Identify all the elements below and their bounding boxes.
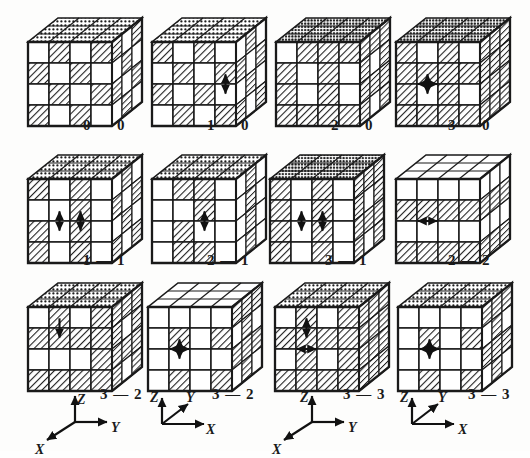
cube-front-cell [417,221,438,242]
cube-front-cell [152,221,173,242]
cube-front-cell [215,221,236,242]
cube-front-cell [215,200,236,221]
cube-front-face [28,307,112,391]
cube-front-cell [70,42,91,63]
cube-front-cell [396,242,417,263]
cube-label: 3 — 3 [343,386,386,403]
cube-front-cell [49,105,70,126]
cube-front-cell [276,42,297,63]
cube-1-0 [152,18,266,126]
cube-front-cell [459,63,480,84]
axis-triad-3 [284,396,344,440]
cube-front-cell [396,200,417,221]
cube-front-cell [338,307,359,328]
cube-front-face [28,42,112,126]
cube-front-cell [152,84,173,105]
cube-front-cell [276,105,297,126]
cube-front-cell [333,200,354,221]
cube-front-cell [417,42,438,63]
cube-front-cell [275,370,296,391]
cube-front-cell [276,63,297,84]
cube-front-cell [396,105,417,126]
cube-front-cell [173,42,194,63]
cube-2-1 [152,155,266,263]
cube-front-cell [297,84,318,105]
cube-front-face [152,179,236,263]
cube-front-cell [173,242,194,263]
cube-front-cell [318,63,339,84]
cube-front-cell [297,105,318,126]
cube-front-cell [28,63,49,84]
cube-front-cell [49,370,70,391]
cube-front-cell [459,200,480,221]
axis-label-y: Y [111,420,120,436]
cube-front-face [28,179,112,263]
cube-front-cell [270,221,291,242]
cube-front-cell [291,179,312,200]
cube-front-cell [461,349,482,370]
cube-front-cell [417,242,438,263]
cube-2-0 [276,18,390,126]
cube-front-cell [173,221,194,242]
cube-front-cell [194,63,215,84]
cube-front-face [398,307,482,391]
cube-front-cell [438,200,459,221]
cube-front-cell [338,328,359,349]
cube-front-cell [70,179,91,200]
cube-front-cell [339,84,360,105]
cube-front-face [152,42,236,126]
cube-front-cell [317,328,338,349]
cube-front-cell [318,84,339,105]
cube-front-cell [275,349,296,370]
cube-front-cell [276,84,297,105]
cube-front-cell [396,63,417,84]
cube-front-cell [270,200,291,221]
cube-front-cell [333,179,354,200]
cube-front-cell [28,349,49,370]
cube-front-cell [91,349,112,370]
axis-label-y: Y [438,390,447,406]
cube-front-cell [169,307,190,328]
cube-front-cell [211,328,232,349]
cube-front-cell [461,307,482,328]
cube-front-cell [215,42,236,63]
cube-front-cell [91,84,112,105]
cube-front-cell [91,307,112,328]
cube-3-2-b [148,283,262,391]
cube-front-cell [190,328,211,349]
axis-label-x: X [458,422,467,438]
cube-front-cell [339,63,360,84]
cube-2-2 [396,155,510,263]
cube-3-3-a [275,283,389,391]
cube-front-cell [173,179,194,200]
cube-front-cell [28,200,49,221]
cube-front-cell [49,84,70,105]
cube-front-cell [148,328,169,349]
cube-front-cell [28,370,49,391]
cube-3-2-a [28,283,142,391]
cube-front-cell [291,242,312,263]
cube-3-3-b [398,283,512,391]
cube-front-cell [194,84,215,105]
cube-front-cell [148,307,169,328]
cube-front-cell [317,370,338,391]
axis-label-z: Z [300,390,309,406]
cube-front-cell [398,328,419,349]
cube-front-cell [438,42,459,63]
cube-label: 3 — 1 [325,252,368,269]
cube-front-cell [398,370,419,391]
cube-front-cell [28,84,49,105]
cube-front-cell [440,328,461,349]
cube-front-cell [275,307,296,328]
cube-front-cell [70,370,91,391]
cube-front-cell [70,307,91,328]
cube-front-cell [49,42,70,63]
cube-front-cell [49,242,70,263]
cube-front-cell [211,349,232,370]
cube-label: 1 — 1 [83,252,126,269]
cube-front-cell [91,179,112,200]
cube-label: 3 — 2 [100,386,143,403]
cube-front-cell [270,242,291,263]
cube-front-cell [91,221,112,242]
